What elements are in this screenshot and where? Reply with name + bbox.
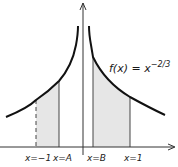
- label-x-neg-one: x=−1: [24, 153, 51, 163]
- function-label: f(x) = x−2/3: [109, 60, 170, 75]
- label-x-one: x=1: [123, 153, 143, 163]
- label-x-b: x=B: [86, 153, 106, 163]
- function-exponent: −2/3: [151, 60, 171, 69]
- label-x-a: x=A: [52, 153, 72, 163]
- improper-integral-diagram: f(x) = x−2/3 x=−1 x=A x=B x=1: [0, 0, 178, 167]
